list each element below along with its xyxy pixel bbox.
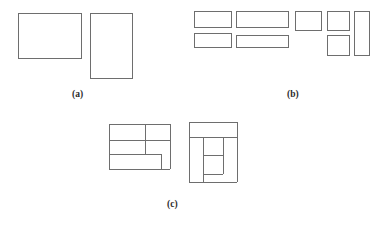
- panel-b-rect-3: [194, 33, 232, 48]
- panel-b-rect-7: [327, 35, 350, 56]
- panel-b-rect-4: [236, 35, 289, 48]
- panel-b: (b): [0, 0, 378, 113]
- panel-b-caption: (b): [287, 90, 299, 100]
- panel-b-rect-2: [236, 11, 289, 28]
- panel-c-figure-right: [0, 113, 378, 227]
- panel-b-rect-8: [354, 11, 370, 56]
- panel-c-caption: (c): [167, 200, 178, 210]
- panel-b-rect-5: [295, 11, 322, 31]
- panel-c: (c): [0, 113, 378, 227]
- panel-b-rect-6: [327, 11, 350, 31]
- panel-b-rect-1: [194, 11, 232, 28]
- figure-root: (a) (b) (c): [0, 0, 378, 227]
